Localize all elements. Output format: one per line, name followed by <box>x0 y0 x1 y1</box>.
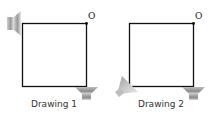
square-path <box>23 24 87 87</box>
drawing-2-caption: Drawing 2 <box>107 99 215 109</box>
square-path <box>130 24 194 87</box>
origin-label: O <box>195 11 202 21</box>
origin-point <box>192 22 195 25</box>
origin-label: O <box>88 11 95 21</box>
drawing-2-panel: O Drawing 2 <box>107 0 215 114</box>
speaker-icon <box>7 11 21 36</box>
origin-point <box>85 22 88 25</box>
drawing-1-panel: O Drawing 1 <box>0 0 108 114</box>
drawing-1-caption: Drawing 1 <box>0 99 108 109</box>
